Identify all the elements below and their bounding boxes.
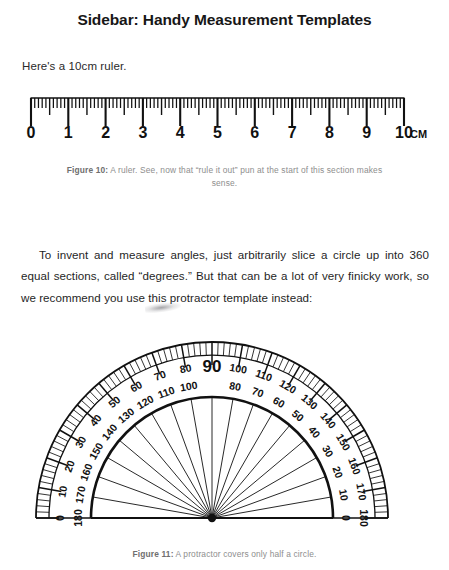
ruler-label-7: 7	[288, 124, 297, 141]
protractor-inner-label-20: 20	[330, 465, 345, 480]
protractor-inner-label-40: 40	[306, 424, 323, 441]
protractor-outer-label-90: 90	[203, 357, 222, 376]
protractor-outer-label-150: 150	[334, 431, 353, 452]
protractor-figure: 0102030405060708090100110120130140150160…	[0, 330, 449, 530]
ruler-label-8: 8	[325, 124, 334, 141]
protractor-outer-label-0: 0	[54, 515, 66, 521]
protractor-outer-label-60: 60	[128, 378, 144, 394]
protractor-outer-label-130: 130	[299, 391, 320, 412]
protractor-graphic: 0102030405060708090100110120130140150160…	[0, 330, 449, 530]
ruler-label-4: 4	[176, 124, 185, 141]
protractor-inner-label-160: 160	[77, 462, 94, 483]
protractor-inner-label-110: 110	[156, 383, 176, 400]
ruler-label-3: 3	[138, 124, 147, 141]
protractor-inner-label-140: 140	[99, 421, 120, 442]
protractor-inner-label-80: 80	[228, 379, 242, 393]
figure-caption-ruler: Figure 10: A ruler. See, now that “rule …	[0, 164, 449, 190]
figure-label-10: Figure 10:	[67, 165, 109, 175]
ruler-label-2: 2	[101, 124, 110, 141]
protractor-outer-label-100: 100	[229, 361, 248, 376]
protractor-inner-label-60: 60	[271, 394, 287, 410]
intro-text: Here's a 10cm ruler.	[22, 60, 127, 72]
protractor-outer-label-30: 30	[72, 434, 88, 450]
protractor-inner-label-150: 150	[86, 440, 105, 461]
protractor-outer-label-170: 170	[354, 482, 369, 501]
protractor-outer-label-20: 20	[62, 458, 77, 473]
protractor-outer-label-160: 160	[346, 456, 363, 477]
protractor-outer-label-120: 120	[277, 377, 298, 396]
protractor-outer-label-40: 40	[87, 412, 104, 429]
protractor-inner-label-130: 130	[115, 405, 136, 426]
protractor-inner-label-180: 180	[72, 509, 84, 527]
protractor-inner-label-30: 30	[320, 443, 336, 459]
protractor-inner-label-170: 170	[73, 485, 88, 504]
ruler-label-5: 5	[213, 124, 222, 141]
protractor-inner-label-0: 0	[340, 515, 352, 521]
figure-label-11: Figure 11:	[133, 549, 174, 559]
protractor-outer-label-80: 80	[179, 361, 193, 375]
protractor-outer-label-10: 10	[55, 485, 69, 499]
protractor-inner-label-120: 120	[134, 392, 155, 411]
protractor-outer-label-140: 140	[318, 410, 339, 431]
ruler-label-6: 6	[250, 124, 259, 141]
ruler-label-0: 0	[27, 124, 36, 141]
ruler-label-1: 1	[64, 124, 73, 141]
page-title: Sidebar: Handy Measurement Templates	[0, 11, 449, 29]
ruler-figure: 012345678910CM	[0, 96, 449, 146]
document-page: Sidebar: Handy Measurement Templates Her…	[0, 0, 449, 570]
protractor-outer-label-180: 180	[358, 509, 370, 527]
figure-text-11: A protractor covers only half a circle.	[176, 549, 317, 559]
ruler-graphic: 012345678910CM	[0, 96, 449, 146]
figure-caption-protractor: Figure 11: A protractor covers only half…	[0, 548, 449, 561]
protractor-outer-label-110: 110	[254, 367, 274, 384]
protractor-outer-label-70: 70	[152, 367, 167, 382]
protractor-inner-label-10: 10	[337, 488, 351, 502]
protractor-inner-label-100: 100	[179, 379, 198, 394]
body-paragraph: To invent and measure angles, just arbit…	[21, 244, 429, 309]
ruler-label-9: 9	[362, 124, 371, 141]
protractor-inner-label-70: 70	[250, 384, 265, 399]
ruler-unit-label: CM	[410, 128, 427, 140]
protractor-inner-label-50: 50	[290, 407, 307, 424]
figure-text-10: A ruler. See, now that “rule it out” pun…	[110, 165, 382, 188]
